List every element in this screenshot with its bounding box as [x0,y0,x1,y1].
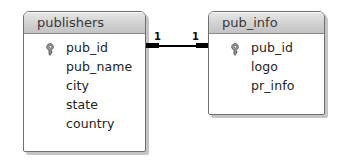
field-list-publishers: pub_id pub_name city state country [24,34,145,138]
table-header-pub-info[interactable]: pub_info [209,12,324,34]
field-name: country [66,114,115,133]
table-row[interactable]: city [24,76,145,95]
table-row[interactable]: state [24,95,145,114]
field-list-pub-info: pub_id logo pr_info [209,34,324,100]
field-name: pub_id [66,38,108,57]
table-row[interactable]: pub_id [209,38,324,57]
table-header-publishers[interactable]: publishers [24,12,145,34]
table-row[interactable]: logo [209,57,324,76]
table-title-publishers: publishers [37,14,104,32]
table-row[interactable]: pr_info [209,76,324,95]
field-name: pub_name [66,57,132,76]
cardinality-label-left: 1 [154,32,161,42]
relationship-endpoint-left [146,43,159,48]
field-name: pub_id [251,38,293,57]
table-row[interactable]: pub_name [24,57,145,76]
field-name: city [66,76,89,95]
table-row[interactable]: country [24,114,145,133]
field-name: pr_info [251,76,294,95]
field-name: state [66,95,98,114]
field-name: logo [251,57,278,76]
key-icon [230,41,241,54]
er-diagram-canvas: publishers pub_id pub_name city state [0,0,346,164]
key-icon [45,41,56,54]
table-row[interactable]: pub_id [24,38,145,57]
entity-table-publishers[interactable]: publishers pub_id pub_name city state [23,11,146,152]
table-title-pub-info: pub_info [222,14,278,32]
cardinality-label-right: 1 [192,32,199,42]
entity-table-pub-info[interactable]: pub_info pub_id logo pr_info [208,11,325,115]
